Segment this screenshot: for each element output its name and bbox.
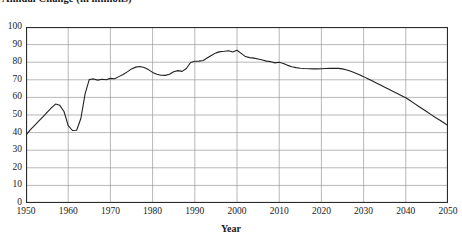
x-tick-label-2010: 2010 <box>270 207 289 217</box>
y-tick-label-60: 60 <box>13 92 23 102</box>
x-tick-label-1980: 1980 <box>143 207 162 217</box>
x-tick-label-1990: 1990 <box>185 207 204 217</box>
x-tick-label-1970: 1970 <box>101 207 120 217</box>
y-tick-label-10: 10 <box>13 180 23 190</box>
y-tick-label-100: 100 <box>8 22 22 32</box>
y-tick-label-90: 90 <box>13 40 23 50</box>
x-tick-label-2020: 2020 <box>312 207 331 217</box>
x-tick-label-2040: 2040 <box>396 207 415 217</box>
grid-lines <box>26 27 448 203</box>
y-axis-tick-labels: 0102030405060708090100 <box>0 27 22 203</box>
x-axis-tick-labels: 1950196019701980199020002010202020302040… <box>0 207 462 221</box>
annual-change-line-chart: Annual Change (in millions) 010203040506… <box>0 0 462 241</box>
x-tick-label-1950: 1950 <box>17 207 36 217</box>
x-axis-title: Year <box>0 223 462 234</box>
y-tick-label-30: 30 <box>13 145 23 155</box>
x-tick-label-1960: 1960 <box>59 207 78 217</box>
y-tick-label-50: 50 <box>13 110 23 120</box>
y-tick-label-80: 80 <box>13 57 23 67</box>
plot-svg <box>26 27 448 203</box>
y-tick-label-40: 40 <box>13 128 23 138</box>
chart-title: Annual Change (in millions) <box>2 0 132 4</box>
x-tick-label-2050: 2050 <box>439 207 458 217</box>
plot-area <box>26 27 448 203</box>
y-tick-label-70: 70 <box>13 75 23 85</box>
x-tick-label-2030: 2030 <box>354 207 373 217</box>
x-tick-label-2000: 2000 <box>228 207 247 217</box>
y-tick-label-20: 20 <box>13 163 23 173</box>
